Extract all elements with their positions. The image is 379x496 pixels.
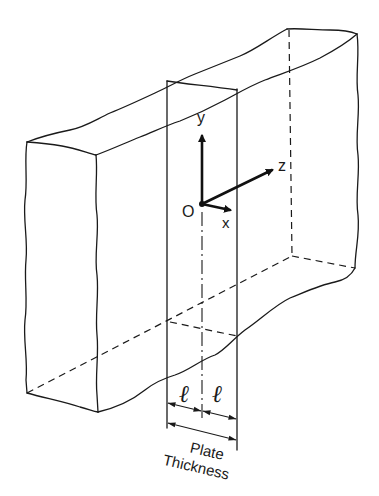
left-front-edge [96, 155, 98, 412]
z-axis-label: z [278, 157, 286, 174]
plate-thickness-dimension [168, 423, 236, 440]
half-thickness-right-label: ℓ [212, 381, 222, 407]
x-axis-label: x [222, 214, 230, 231]
top-right-edge [287, 29, 357, 34]
top-front-edge [96, 34, 357, 155]
slab-top-edge [167, 81, 237, 90]
bottom-front-edge [98, 268, 355, 412]
right-outer-edge [355, 34, 358, 268]
left-outer-edge [25, 142, 27, 393]
hidden-slab-bottom-edge [170, 322, 237, 336]
y-axis-label: y [197, 109, 205, 126]
thickness-dimensions: ℓ ℓ Plate Thickness [161, 381, 236, 483]
plate-diagram: y z O x ℓ ℓ Plate Thickness [0, 0, 379, 496]
top-back-edge [27, 29, 287, 142]
x-axis-arrow [202, 204, 230, 210]
coordinate-system: y z O x [182, 109, 286, 231]
top-left-edge [27, 142, 96, 155]
hidden-bottom-right-edge [292, 256, 355, 268]
half-thickness-right-dimension [203, 411, 236, 419]
hidden-back-vertical [289, 30, 292, 256]
half-thickness-left-label: ℓ [179, 381, 189, 407]
bottom-left-edge [27, 393, 98, 412]
plate-block-outline [25, 29, 359, 412]
origin-point [199, 201, 205, 207]
origin-label: O [182, 203, 194, 220]
